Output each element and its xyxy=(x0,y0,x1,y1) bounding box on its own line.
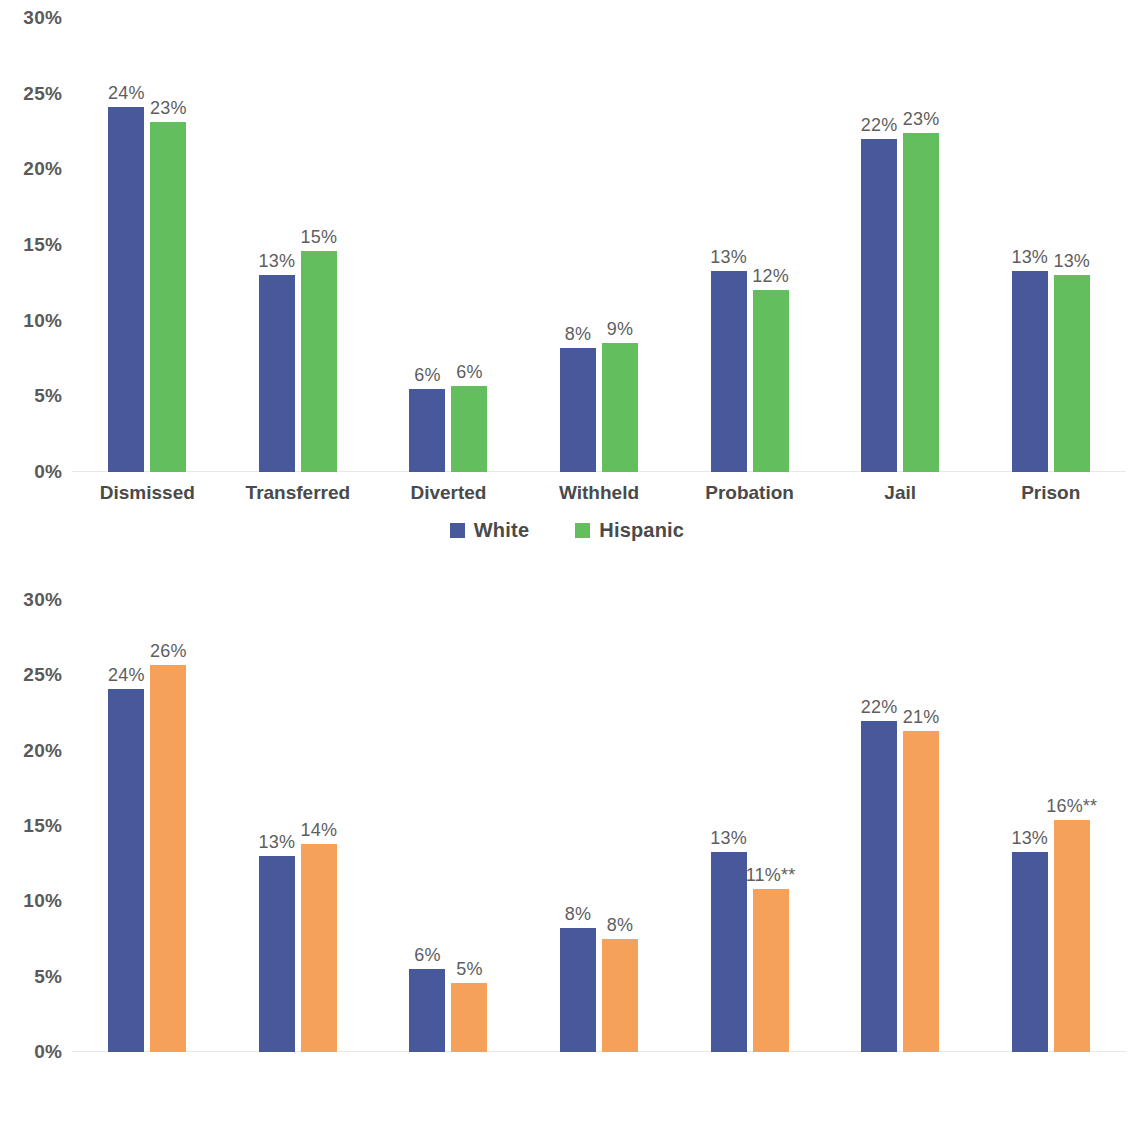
bar-column: 13% xyxy=(259,18,295,472)
bar-value-label: 6% xyxy=(456,362,482,383)
bar-group: 13%14% xyxy=(223,600,374,1052)
bar[interactable] xyxy=(451,983,487,1052)
bar-value-label: 24% xyxy=(108,83,145,104)
bars: 13%16%** xyxy=(975,600,1126,1052)
bar[interactable] xyxy=(1054,820,1090,1052)
bars: 13%12% xyxy=(674,18,825,472)
bar-group: 13%11%** xyxy=(674,600,825,1052)
bar-value-label: 13% xyxy=(259,832,296,853)
y-axis-tick-label: 0% xyxy=(0,461,62,483)
bar-value-label: 12% xyxy=(752,266,789,287)
bar-column: 8% xyxy=(602,600,638,1052)
bar[interactable] xyxy=(861,139,897,472)
bar[interactable] xyxy=(150,665,186,1052)
bar[interactable] xyxy=(753,889,789,1052)
bar[interactable] xyxy=(301,251,337,472)
bar-value-label: 8% xyxy=(565,904,591,925)
bar-group: 6%6% xyxy=(373,18,524,472)
bar-column: 22% xyxy=(861,600,897,1052)
bar-column: 21% xyxy=(903,600,939,1052)
plot-area-chart-2: 24%26%13%14%6%5%8%8%13%11%**22%21%13%16%… xyxy=(72,600,1126,1052)
bar-column: 13% xyxy=(711,18,747,472)
bar[interactable] xyxy=(108,107,144,472)
bar[interactable] xyxy=(409,969,445,1052)
category-label: Diverted xyxy=(373,482,524,504)
bar-column: 5% xyxy=(451,600,487,1052)
bar-column: 13% xyxy=(259,600,295,1052)
bar[interactable] xyxy=(753,290,789,472)
y-axis-tick-label: 15% xyxy=(0,234,62,256)
bar-column: 13% xyxy=(711,600,747,1052)
bar-column: 14% xyxy=(301,600,337,1052)
bar[interactable] xyxy=(409,389,445,472)
bar-column: 24% xyxy=(108,18,144,472)
bar-value-label: 26% xyxy=(150,641,187,662)
bar-value-label: 14% xyxy=(301,820,338,841)
bars: 8%9% xyxy=(524,18,675,472)
bar-value-label: 16%** xyxy=(1046,796,1097,817)
bar-value-label: 13% xyxy=(710,247,747,268)
y-axis-tick-label: 5% xyxy=(0,966,62,988)
y-axis-tick-label: 25% xyxy=(0,664,62,686)
bar[interactable] xyxy=(711,852,747,1052)
chart-white-vs-black: 0%5%10%15%20%25%30% 24%26%13%14%6%5%8%8%… xyxy=(0,576,1134,1139)
y-axis-tick-label: 30% xyxy=(0,7,62,29)
y-axis-tick-label: 25% xyxy=(0,83,62,105)
bars: 13%11%** xyxy=(674,600,825,1052)
bar[interactable] xyxy=(108,689,144,1052)
bar-column: 9% xyxy=(602,18,638,472)
bar-column: 8% xyxy=(560,18,596,472)
bar-value-label: 5% xyxy=(456,959,482,980)
y-axis-tick-label: 15% xyxy=(0,815,62,837)
bar-value-label: 9% xyxy=(607,319,633,340)
bar-column: 6% xyxy=(451,18,487,472)
category-labels-chart-1: DismissedTransferredDivertedWithheldProb… xyxy=(72,482,1126,504)
bar[interactable] xyxy=(560,348,596,472)
bar[interactable] xyxy=(560,928,596,1052)
bar-column: 6% xyxy=(409,600,445,1052)
bars: 6%5% xyxy=(373,600,524,1052)
bar-group: 6%5% xyxy=(373,600,524,1052)
bar[interactable] xyxy=(711,271,747,472)
bar[interactable] xyxy=(259,856,295,1052)
bar[interactable] xyxy=(861,721,897,1052)
bar-column: 26% xyxy=(150,600,186,1052)
bar-column: 11%** xyxy=(753,600,789,1052)
bars: 13%14% xyxy=(223,600,374,1052)
bar[interactable] xyxy=(903,133,939,472)
bar[interactable] xyxy=(301,844,337,1052)
bar-column: 13% xyxy=(1054,18,1090,472)
bar-value-label: 6% xyxy=(414,945,440,966)
bar[interactable] xyxy=(259,275,295,472)
category-label: Prison xyxy=(975,482,1126,504)
bars: 13%13% xyxy=(975,18,1126,472)
category-label: Jail xyxy=(825,482,976,504)
bar-value-label: 22% xyxy=(861,115,898,136)
bar[interactable] xyxy=(150,122,186,472)
bar-column: 12% xyxy=(753,18,789,472)
legend-item[interactable]: White xyxy=(450,519,529,542)
bar[interactable] xyxy=(1012,271,1048,472)
bar[interactable] xyxy=(903,731,939,1052)
y-axis-tick-label: 30% xyxy=(0,589,62,611)
bar-column: 13% xyxy=(1012,18,1048,472)
y-axis-chart-1: 0%5%10%15%20%25%30% xyxy=(0,18,62,472)
bar-column: 23% xyxy=(150,18,186,472)
bars: 8%8% xyxy=(524,600,675,1052)
bar-group: 24%26% xyxy=(72,600,223,1052)
bar[interactable] xyxy=(1054,275,1090,472)
bar-value-label: 13% xyxy=(710,828,747,849)
bars: 22%23% xyxy=(825,18,976,472)
bar[interactable] xyxy=(1012,852,1048,1052)
category-label: Dismissed xyxy=(72,482,223,504)
bar-column: 8% xyxy=(560,600,596,1052)
chart-white-vs-hispanic: 0%5%10%15%20%25%30% 24%23%13%15%6%6%8%9%… xyxy=(0,0,1134,555)
bar-groups-chart-1: 24%23%13%15%6%6%8%9%13%12%22%23%13%13% xyxy=(72,18,1126,472)
y-axis-tick-label: 10% xyxy=(0,890,62,912)
legend-item[interactable]: Hispanic xyxy=(575,519,684,542)
bar[interactable] xyxy=(602,343,638,472)
bar-group: 8%9% xyxy=(524,18,675,472)
bar[interactable] xyxy=(451,386,487,472)
bar-group: 24%23% xyxy=(72,18,223,472)
bar[interactable] xyxy=(602,939,638,1052)
